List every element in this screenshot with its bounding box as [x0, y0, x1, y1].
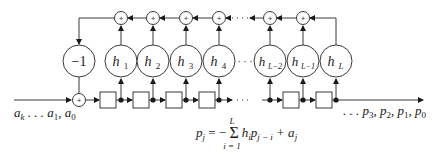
svg-text:h: h: [292, 54, 299, 69]
svg-text:+: +: [77, 96, 82, 105]
svg-text:h: h: [211, 54, 218, 69]
delay-cell-3: [166, 92, 182, 108]
delay-cell-4: [199, 92, 215, 108]
svg-text:3: 3: [189, 61, 194, 71]
svg-text:h: h: [178, 54, 185, 69]
svg-text:h: h: [113, 54, 120, 69]
output-sequence-label: . . . p3, p2, p1, p0: [343, 103, 427, 120]
svg-text:. . . p3, p2, p1, p0: . . . p3, p2, p1, p0: [343, 103, 427, 120]
svg-text:+: +: [301, 14, 306, 23]
svg-text:pj = − Σhipj − i + aj: pj = − Σhipj − i + aj: [195, 124, 298, 142]
multiplier-h3: [170, 45, 202, 77]
svg-text:+: +: [268, 14, 273, 23]
svg-text:L: L: [337, 61, 343, 71]
multiplier-h2: [137, 45, 169, 77]
delay-cell-l-1: [283, 92, 299, 108]
multiplier-h4: [203, 45, 235, 77]
svg-text:−1: −1: [72, 54, 87, 69]
delay-cell-2: [133, 92, 149, 108]
svg-text:+: +: [119, 14, 124, 23]
svg-text:h: h: [259, 54, 266, 69]
svg-text:h: h: [328, 54, 335, 69]
multiplier-hl: [320, 45, 352, 77]
delay-cell-1: [100, 92, 116, 108]
svg-text:ak . . . a1, a0: ak . . . a1, a0: [14, 105, 76, 122]
svg-text:i = 1: i = 1: [223, 141, 241, 151]
multiplier-to-adder-links: [121, 26, 303, 45]
middle-ellipsis: · · ·: [238, 56, 253, 67]
multiplier-h1: [105, 45, 137, 77]
delay-cell-l: [316, 92, 332, 108]
svg-text:h: h: [145, 54, 152, 69]
svg-text:+: +: [217, 14, 222, 23]
lfsr-diagram: + + + + + + −1 h 1 h 2 h 3 h 4 h L−2: [0, 0, 437, 157]
svg-text:L−2: L−2: [267, 62, 282, 71]
svg-text:L−1: L−1: [300, 62, 315, 71]
svg-text:L: L: [228, 116, 234, 126]
svg-text:+: +: [151, 14, 156, 23]
svg-text:1: 1: [124, 61, 129, 71]
input-sequence-label: ak . . . a1, a0: [14, 105, 76, 122]
svg-text:4: 4: [222, 61, 227, 71]
svg-text:+: +: [184, 14, 189, 23]
recurrence-equation: pj = − Σhipj − i + aj L i = 1: [195, 116, 298, 151]
multipliers: −1 h 1 h 2 h 3 h 4 h L−2 h L−1 h L · · ·: [63, 45, 352, 77]
svg-text:2: 2: [156, 61, 161, 71]
